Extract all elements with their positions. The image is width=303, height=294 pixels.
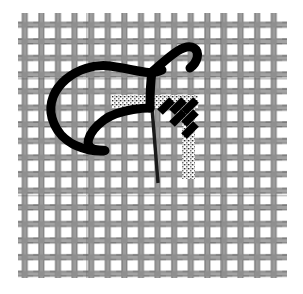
canvas-cloth bbox=[18, 13, 287, 278]
figure-svg bbox=[0, 0, 303, 294]
thread-needle-junction bbox=[150, 72, 152, 108]
cloth-weave-fill bbox=[18, 13, 287, 278]
embroidery-stitch-figure bbox=[0, 0, 303, 294]
